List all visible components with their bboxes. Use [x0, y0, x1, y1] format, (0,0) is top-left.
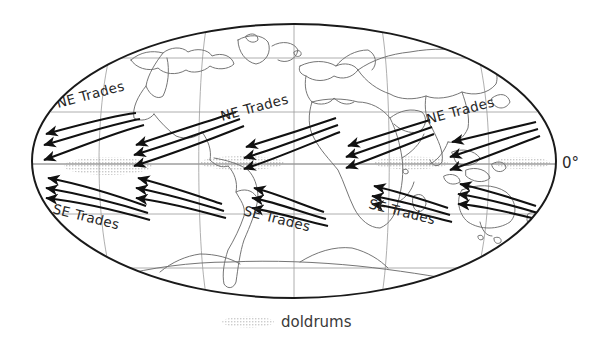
doldrums-caption-shading — [222, 317, 274, 328]
doldrums-caption: doldrums — [281, 313, 352, 331]
equator-degree-label: 0° — [562, 154, 579, 172]
world-map-diagram: NE Trades NE Trades NE Trades SE Trades … — [0, 0, 599, 350]
trade-winds-figure: NE Trades NE Trades NE Trades SE Trades … — [0, 0, 599, 350]
